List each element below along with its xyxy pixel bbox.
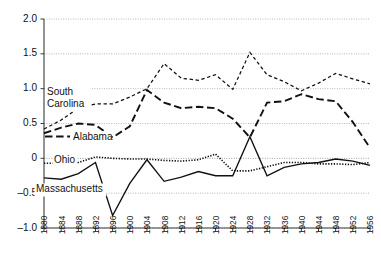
line-chart: 2.01.51.00.50–0.5–1.01880188418881892189… (0, 0, 381, 270)
chart-label-south-carolina-line1: South (47, 86, 73, 97)
x-tick-label-1932: 1932 (263, 215, 272, 234)
x-tick-label-1928: 1928 (246, 215, 255, 234)
x-tick-label-1916: 1916 (195, 215, 204, 234)
x-tick-label-1952: 1952 (349, 215, 358, 234)
chart-label-south-carolina-line2: Carolina (47, 98, 85, 109)
y-tick-label-0.5: 0.5 (23, 117, 37, 128)
chart-label-alabama: Alabama (73, 131, 113, 142)
x-tick-label-1896: 1896 (109, 215, 118, 234)
y-tick-label-1.5: 1.5 (23, 47, 37, 58)
series-line-massachusetts (44, 137, 370, 216)
x-tick-label-1908: 1908 (161, 215, 170, 234)
x-tick-label-1920: 1920 (212, 215, 221, 234)
x-tick-label-1904: 1904 (143, 215, 152, 234)
x-tick-label-1940: 1940 (298, 215, 307, 234)
x-tick-label-1912: 1912 (178, 215, 187, 234)
y-tick-label--0.5: –0.5 (18, 187, 38, 198)
chart-label-massachusetts: Massachusetts (36, 183, 103, 194)
x-tick-label-1900: 1900 (126, 215, 135, 234)
chart-label-ohio: Ohio (54, 154, 76, 165)
x-tick-label-1944: 1944 (315, 215, 324, 234)
x-tick-label-1880: 1880 (40, 215, 49, 234)
y-tick-label-1.0: 1.0 (23, 82, 37, 93)
y-tick-label--1.0: –1.0 (18, 222, 38, 233)
x-tick-label-1892: 1892 (92, 215, 101, 234)
x-tick-label-1884: 1884 (58, 215, 67, 234)
chart-canvas: 2.01.51.00.50–0.5–1.01880188418881892189… (0, 0, 381, 270)
y-tick-label-0: 0 (31, 152, 37, 163)
x-tick-label-1888: 1888 (75, 215, 84, 234)
series-line-south-carolina (44, 52, 370, 129)
x-tick-label-1956: 1956 (366, 215, 375, 234)
x-tick-label-1948: 1948 (332, 215, 341, 234)
x-tick-label-1924: 1924 (229, 215, 238, 234)
x-tick-label-1936: 1936 (281, 215, 290, 234)
y-tick-label-2.0: 2.0 (23, 13, 37, 24)
